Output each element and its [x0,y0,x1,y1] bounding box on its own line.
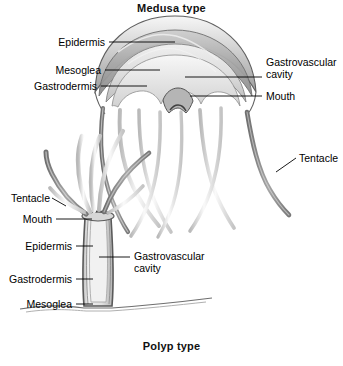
label-medusa-tentacle: Tentacle [299,152,338,164]
label-polyp-mouth: Mouth [0,213,52,225]
label-polyp-mesoglea: Mesoglea [0,298,72,310]
polyp-tentacles [46,131,149,214]
label-medusa-gastrovascular-cavity: Gastrovascular cavity [266,56,343,80]
leader-medusa-tentacle [276,158,296,172]
polyp-gastrovascular-cavity [90,219,108,302]
medusa-title: Medusa type [0,2,343,14]
label-medusa-mesoglea: Mesoglea [0,64,101,76]
label-medusa-epidermis: Epidermis [0,36,105,48]
label-polyp-tentacle: Tentacle [0,192,50,204]
polyp-title: Polyp type [0,340,343,352]
label-medusa-gastrodermis: Gastrodermis [0,80,97,92]
label-medusa-mouth: Mouth [266,90,295,102]
label-polyp-gastrovascular-cavity: Gastrovascular cavity [134,250,212,274]
cnidarian-diagram: Medusa type Polyp type Epidermis Mesogle… [0,0,343,366]
label-polyp-gastrodermis: Gastrodermis [0,273,72,285]
label-polyp-epidermis: Epidermis [0,240,72,252]
diagram-artwork [0,0,343,366]
